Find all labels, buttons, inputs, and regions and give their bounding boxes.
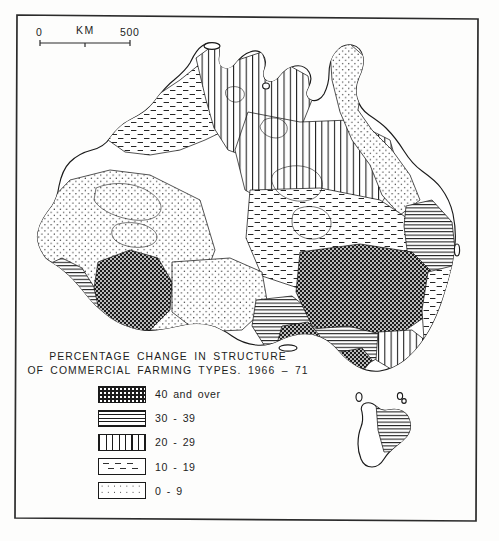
map-title-line-1: PERCENTAGE CHANGE IN STRUCTURE (18, 350, 318, 364)
map-title: PERCENTAGE CHANGE IN STRUCTURE OF COMMER… (18, 350, 318, 377)
legend-swatch-dark-checker-icon (98, 386, 146, 403)
legend-swatch-vertical-lines-icon (98, 434, 146, 451)
scalebar: 0 KM 500 (34, 24, 154, 54)
legend-swatch-sparse-dots-icon (98, 482, 146, 499)
island-fraser (454, 244, 459, 256)
legend-item-40-and-over: 40 and over (98, 382, 220, 406)
region-wa-wheatbelt (94, 250, 172, 332)
legend-swatch-dashes-icon (98, 458, 146, 475)
island-flinders-a (397, 393, 402, 400)
scalebar-unit-label: KM (76, 24, 95, 36)
mainland-group (34, 43, 460, 372)
legend-label-30-39: 30 - 39 (155, 412, 195, 424)
map-page: 0 KM 500 PERCENTAGE CHANGE IN STRUCTURE … (0, 0, 499, 541)
legend-item-10-19: 10 - 19 (98, 455, 220, 479)
island-groote (263, 83, 270, 89)
scalebar-start-label: 0 (36, 26, 42, 38)
legend-swatch-horizontal-lines-icon (98, 410, 146, 427)
legend-item-20-29: 20 - 29 (98, 430, 220, 454)
legend-label-10-19: 10 - 19 (155, 461, 195, 473)
legend-item-30-39: 30 - 39 (98, 406, 220, 430)
island-melville (204, 43, 220, 50)
legend-label-20-29: 20 - 29 (155, 436, 195, 448)
island-flinders-b (402, 399, 406, 404)
legend-item-0-9: 0 - 9 (98, 479, 220, 503)
legend-label-0-9: 0 - 9 (155, 485, 183, 497)
bass-strait-islands (356, 393, 406, 404)
map-title-line-2: OF COMMERCIAL FARMING TYPES. 1966 – 71 (18, 364, 318, 378)
map-legend: 40 and over 30 - 39 20 - 29 (98, 382, 220, 503)
australia-map (0, 0, 499, 541)
scalebar-end-label: 500 (120, 26, 139, 38)
island-king (356, 393, 362, 402)
tasmania-group (358, 403, 412, 467)
legend-label-40-and-over: 40 and over (155, 388, 220, 400)
